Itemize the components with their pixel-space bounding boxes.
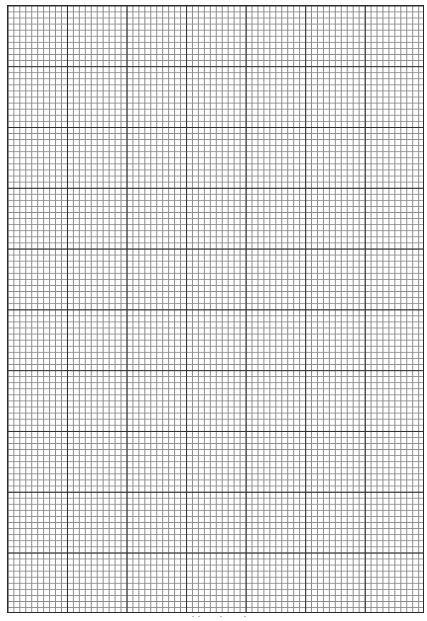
print-mark xyxy=(192,616,194,617)
graph-paper-grid xyxy=(7,5,424,613)
print-mark xyxy=(244,616,246,617)
print-mark xyxy=(198,616,200,617)
footer-print-marks xyxy=(190,614,250,619)
print-mark xyxy=(220,616,222,617)
